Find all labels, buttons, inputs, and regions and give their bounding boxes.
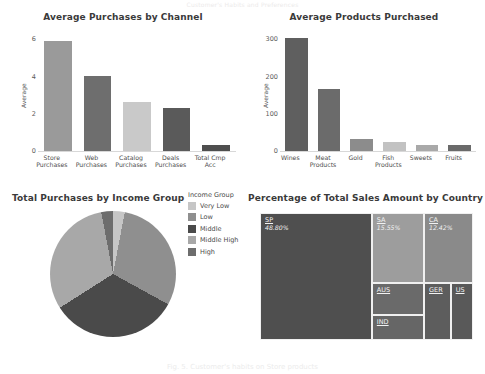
y-axis-ticks-2: 0100200300 <box>260 30 280 152</box>
bar-wines[interactable] <box>285 38 308 151</box>
treemap-cell-label: GER <box>429 286 443 294</box>
treemap-cell-value: 12.42% <box>429 224 453 231</box>
y-tick-2-1: 100 <box>266 110 278 118</box>
chart-panel-purchases-by-income-group: Total Purchases by Income Group Income G… <box>0 193 243 361</box>
bar-web-purchases[interactable] <box>84 76 112 151</box>
bar-column[interactable] <box>313 30 346 151</box>
legend-swatch <box>188 225 196 233</box>
pie-chart[interactable] <box>50 211 176 337</box>
treemap-cell-ca[interactable]: CA12.42% <box>424 213 473 283</box>
x-axis-labels-1: Store PurchasesWeb PurchasesCatalog Purc… <box>32 154 230 169</box>
legend-label: Middle High <box>200 236 238 244</box>
bar-sweets[interactable] <box>416 145 439 151</box>
bar-store-purchases[interactable] <box>44 41 72 151</box>
page-top-title: Customer's Habits and Preferences <box>0 0 485 9</box>
treemap-cell-label: US <box>456 286 465 294</box>
chart-title-purchases-by-channel: Average Purchases by Channel <box>4 12 242 22</box>
x-label-deals-purchases: Deals Purchases <box>151 154 191 169</box>
treemap-cell-label: SP <box>265 216 273 224</box>
pie-chart-area <box>50 211 176 337</box>
x-label-wines: Wines <box>274 154 307 169</box>
treemap-sales-by-country: SP48.80%SA15.55%CA12.42%AUSINDGERUS <box>260 213 473 340</box>
bars-container-2 <box>280 30 476 151</box>
bar-fruits[interactable] <box>448 145 471 151</box>
x-label-catalog-purchases: Catalog Purchases <box>111 154 151 169</box>
bar-column[interactable] <box>157 30 197 151</box>
bars-container-1 <box>38 30 236 151</box>
bar-column[interactable] <box>280 30 313 151</box>
bar-chart-products-purchased: Average 0100200300 <box>260 30 476 152</box>
treemap-cell-label: SA <box>377 216 386 224</box>
y-tick-2-3: 300 <box>266 35 278 43</box>
x-label-total-cmp-acc: Total Cmp Acc <box>190 154 230 169</box>
x-axis-line-1 <box>38 151 236 152</box>
legend-label: Low <box>200 213 213 221</box>
x-label-sweets: Sweets <box>405 154 438 169</box>
y-tick-1-2: 4 <box>32 73 36 81</box>
legend-item-middle[interactable]: Middle <box>188 225 238 233</box>
x-label-gold: Gold <box>339 154 372 169</box>
x-label-fish-products: Fish Products <box>372 154 405 169</box>
treemap-cell-value: 15.55% <box>377 224 401 231</box>
treemap-cell-value: 48.80% <box>265 224 289 231</box>
treemap-cell-label: CA <box>429 216 438 224</box>
treemap-cell-aus[interactable]: AUS <box>372 283 424 314</box>
bar-column[interactable] <box>378 30 411 151</box>
bar-catalog-purchases[interactable] <box>123 102 151 151</box>
y-tick-1-3: 6 <box>32 35 36 43</box>
legend-item-low[interactable]: Low <box>188 213 238 221</box>
legend-item-high[interactable]: High <box>188 248 238 256</box>
legend-label: High <box>200 248 215 256</box>
legend-income-group: Income Group Very LowLowMiddleMiddle Hig… <box>188 191 238 259</box>
y-tick-1-1: 2 <box>32 110 36 118</box>
bar-meat-products[interactable] <box>318 89 341 151</box>
legend-swatch <box>188 248 196 256</box>
bar-column[interactable] <box>345 30 378 151</box>
x-label-web-purchases: Web Purchases <box>72 154 112 169</box>
legend-item-middle-high[interactable]: Middle High <box>188 236 238 244</box>
legend-label: Very Low <box>200 202 229 210</box>
treemap-cell-sa[interactable]: SA15.55% <box>372 213 424 283</box>
legend-item-very-low[interactable]: Very Low <box>188 202 238 210</box>
bar-column[interactable] <box>196 30 236 151</box>
treemap-cell-label: AUS <box>377 286 390 294</box>
bar-column[interactable] <box>38 30 78 151</box>
legend-swatch <box>188 236 196 244</box>
bar-gold[interactable] <box>350 139 373 151</box>
figure-caption: Fig. 5. Customer's habits on Store produ… <box>0 360 485 374</box>
treemap-cell-ind[interactable]: IND <box>372 315 424 340</box>
bar-column[interactable] <box>117 30 157 151</box>
chart-panel-sales-by-country: Percentage of Total Sales Amount by Coun… <box>246 193 485 361</box>
bar-deals-purchases[interactable] <box>163 108 191 151</box>
bar-column[interactable] <box>411 30 444 151</box>
legend-title: Income Group <box>188 191 238 199</box>
treemap-cell-sp[interactable]: SP48.80% <box>260 213 372 340</box>
treemap-cell-ger[interactable]: GER <box>424 283 451 340</box>
legend-swatch <box>188 213 196 221</box>
bar-total-cmp-acc[interactable] <box>202 145 230 151</box>
chart-title-sales-by-country: Percentage of Total Sales Amount by Coun… <box>246 193 485 203</box>
x-axis-line-2 <box>280 151 476 152</box>
x-label-store-purchases: Store Purchases <box>32 154 72 169</box>
chart-panel-products-purchased: Average Products Purchased Average 01002… <box>246 12 482 184</box>
chart-title-products-purchased: Average Products Purchased <box>246 12 482 22</box>
x-label-fruits: Fruits <box>437 154 470 169</box>
legend-swatch <box>188 202 196 210</box>
chart-panel-purchases-by-channel: Average Purchases by Channel Average 024… <box>4 12 242 184</box>
y-axis-ticks-1: 0246 <box>18 30 38 152</box>
bar-column[interactable] <box>78 30 118 151</box>
treemap-cell-label: IND <box>377 318 389 326</box>
legend-label: Middle <box>200 225 221 233</box>
bar-fish-products[interactable] <box>383 142 406 151</box>
y-tick-2-2: 200 <box>266 73 278 81</box>
treemap-cell-us[interactable]: US <box>451 283 473 340</box>
x-label-meat-products: Meat Products <box>307 154 340 169</box>
bar-chart-purchases-by-channel: Average 0246 <box>18 30 236 152</box>
x-axis-labels-2: WinesMeat ProductsGoldFish ProductsSweet… <box>274 154 470 169</box>
bar-column[interactable] <box>443 30 476 151</box>
